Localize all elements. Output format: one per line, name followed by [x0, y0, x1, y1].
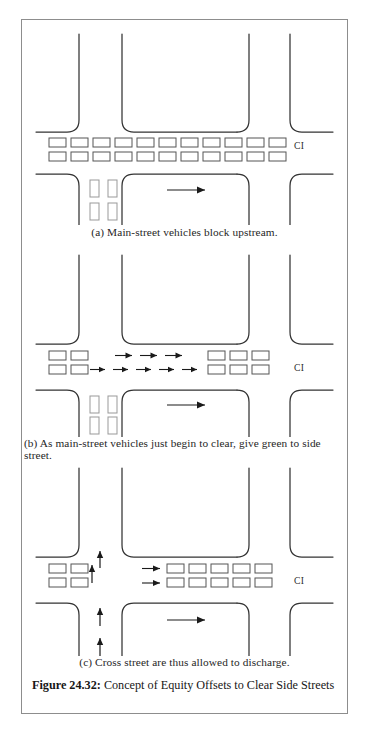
queue-row-lower-arrows [90, 367, 197, 372]
motion-arrow-up [89, 565, 95, 583]
vehicle [167, 564, 184, 573]
vehicle [49, 365, 66, 374]
motion-arrow [140, 353, 157, 359]
vehicle [252, 365, 269, 374]
vehicle [115, 152, 132, 161]
queue-row-lower [49, 152, 286, 161]
cross-street-arrows [89, 551, 103, 656]
vehicle [90, 180, 99, 197]
vehicle [90, 203, 99, 220]
vehicle [225, 138, 242, 147]
queue-row-lower-downstream [208, 365, 269, 374]
figure-caption-text: Concept of Equity Offsets to Clear Side … [104, 678, 334, 692]
road-corner-nw [36, 468, 79, 557]
motion-arrow [90, 367, 105, 372]
panel-c-roads [22, 460, 347, 656]
vehicle [93, 152, 110, 161]
vehicle [93, 138, 110, 147]
queue-row-upper-arrows [115, 353, 182, 359]
vehicle [49, 564, 66, 573]
ci-label-a: CI [294, 140, 304, 151]
road-corner-se [290, 603, 333, 656]
figure-frame: CI (a) Main-street vehicles block upstre… [21, 19, 348, 714]
road-corner-s-right [237, 390, 249, 437]
road-corner-sw [36, 174, 79, 225]
vehicle [230, 351, 247, 360]
queue-row-upper-downstream [167, 564, 272, 573]
vehicle [233, 578, 250, 587]
panel-a: CI (a) Main-street vehicles block upstre… [22, 20, 347, 245]
road-corner-n-right [237, 468, 249, 557]
vehicle [247, 152, 264, 161]
vehicle [90, 396, 99, 413]
road-corner-n-right [237, 34, 249, 132]
vehicle [247, 138, 264, 147]
exit-arrow-right [167, 402, 205, 409]
motion-arrow [165, 353, 182, 359]
panel-b: CI (b) As main-street vehicles just begi… [22, 247, 347, 455]
vehicle [90, 417, 99, 434]
vehicle [108, 203, 117, 220]
panel-b-diagram: CI [22, 247, 347, 437]
vehicle [211, 578, 228, 587]
road-corner-se [290, 390, 333, 437]
vehicle [255, 564, 272, 573]
vehicle [159, 152, 176, 161]
road-corner-n-left [122, 468, 237, 557]
figure-caption: Figure 24.32: Concept of Equity Offsets … [32, 677, 338, 694]
road-corner-s-left [122, 390, 237, 437]
vehicle [108, 396, 117, 413]
panel-a-caption: (a) Main-street vehicles block upstream. [22, 226, 347, 238]
road-corner-s-left [122, 603, 237, 656]
motion-arrow-up [97, 608, 103, 626]
vehicle [108, 417, 117, 434]
queue-row-upper [49, 138, 286, 147]
queue-row-upper-upstream [49, 564, 88, 573]
vehicle [71, 564, 88, 573]
motion-arrow-up [97, 638, 103, 656]
vehicle [189, 564, 206, 573]
panel-a-roads [22, 20, 347, 225]
queue-row-upper-arrows [142, 566, 160, 572]
vehicle [137, 152, 154, 161]
road-corner-s-right [237, 174, 249, 225]
road-corner-ne [290, 34, 333, 132]
motion-arrow [115, 353, 132, 359]
vehicle [71, 152, 88, 161]
vehicle [181, 138, 198, 147]
vehicle [49, 351, 66, 360]
vehicle [225, 152, 242, 161]
motion-arrow [113, 367, 128, 372]
road-corner-ne [290, 468, 333, 557]
road-corner-n-left [122, 255, 237, 344]
road-corner-se [290, 174, 333, 225]
vehicle [159, 138, 176, 147]
figure-number-label: Figure 24.32: [32, 678, 101, 692]
motion-arrow [136, 367, 151, 372]
vehicle [71, 138, 88, 147]
road-corner-nw [36, 34, 79, 132]
vehicle [137, 138, 154, 147]
vehicle [252, 351, 269, 360]
road-corner-sw [36, 390, 79, 437]
vehicle [49, 138, 66, 147]
vehicle [208, 365, 225, 374]
motion-arrow [142, 580, 160, 586]
road-corner-n-right [237, 255, 249, 344]
vehicle [269, 138, 286, 147]
vehicle [71, 365, 88, 374]
queue-row-lower-downstream [167, 578, 272, 587]
vehicle [208, 351, 225, 360]
vehicle [167, 578, 184, 587]
motion-arrow [159, 367, 174, 372]
queue-row-lower-arrows [142, 580, 160, 586]
motion-arrow [142, 566, 160, 572]
cross-street-queue [90, 180, 117, 225]
queue-row-lower-upstream [49, 365, 88, 374]
vehicle [49, 578, 66, 587]
queue-row-lower-upstream [49, 578, 88, 587]
vehicle [108, 180, 117, 197]
road-corner-s-left [122, 174, 237, 225]
vehicle [203, 138, 220, 147]
vehicle [233, 564, 250, 573]
